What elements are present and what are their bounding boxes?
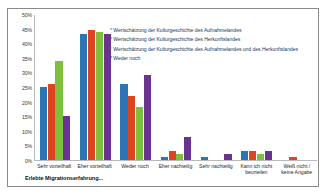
- x-axis-tick-label: Weder noch: [115, 162, 155, 184]
- y-axis-tick-label: 35%: [8, 56, 32, 61]
- bar[interactable]: [96, 32, 103, 160]
- y-axis-tick-label: 20%: [8, 100, 32, 105]
- bar[interactable]: [201, 157, 208, 160]
- bar[interactable]: [265, 151, 272, 160]
- legend-item-label: Wertschätzung der Kulturgeschichte des A…: [113, 46, 298, 52]
- bar[interactable]: [136, 107, 143, 160]
- bar[interactable]: [176, 154, 183, 160]
- legend-item[interactable]: *Weder noch: [110, 55, 318, 61]
- bar-group: [35, 15, 75, 160]
- legend-item[interactable]: *Wertschätzung der Kulturgeschichte des …: [110, 46, 318, 52]
- y-axis-tick-label: 15%: [8, 115, 32, 120]
- legend-item-label: Weder noch: [113, 55, 140, 61]
- legend-marker-icon: *: [110, 36, 112, 42]
- chart-legend: *Wertschätzung der Kulturgeschichte des …: [110, 27, 318, 65]
- bar[interactable]: [184, 137, 191, 160]
- bar[interactable]: [63, 116, 70, 160]
- y-axis-tick-label: 50%: [8, 13, 32, 18]
- chart-plot-wrapper: 50%45%40%35%30%25%20%15%10%5%0% *Wertsch…: [8, 9, 318, 186]
- legend-marker-icon: *: [110, 46, 112, 52]
- x-axis-tick-label: Weiß nicht / keine Angabe: [277, 162, 317, 184]
- y-axis: 50%45%40%35%30%25%20%15%10%5%0%: [8, 15, 34, 161]
- x-axis-title: Erlebte Migrationserfahrung...: [25, 175, 103, 181]
- bar[interactable]: [161, 157, 168, 160]
- y-axis-tick-label: 30%: [8, 71, 32, 76]
- bar[interactable]: [55, 61, 62, 160]
- bar[interactable]: [224, 154, 231, 160]
- bar[interactable]: [40, 87, 47, 160]
- legend-item-label: Wertschätzung der Kulturgeschichte des H…: [113, 36, 240, 42]
- bar[interactable]: [241, 151, 248, 160]
- legend-marker-icon: *: [110, 27, 112, 33]
- y-axis-tick-label: 40%: [8, 42, 32, 47]
- bar[interactable]: [249, 151, 256, 160]
- legend-item[interactable]: *Wertschätzung der Kulturgeschichte des …: [110, 27, 318, 33]
- y-axis-tick-label: 0%: [8, 159, 32, 164]
- bar[interactable]: [120, 84, 127, 160]
- legend-marker-icon: *: [110, 55, 112, 61]
- x-axis-tick-label: Eher nachteilig: [155, 162, 195, 184]
- x-axis-tick-label: Sehr nachteilig: [196, 162, 236, 184]
- bar[interactable]: [48, 84, 55, 160]
- y-axis-tick-label: 10%: [8, 129, 32, 134]
- bar[interactable]: [88, 30, 95, 160]
- bar[interactable]: [257, 154, 264, 160]
- bar[interactable]: [169, 151, 176, 160]
- y-axis-tick-label: 5%: [8, 144, 32, 149]
- y-axis-tick-label: 25%: [8, 86, 32, 91]
- legend-item-label: Wertschätzung der Kulturgeschichte des A…: [113, 27, 241, 33]
- y-axis-tick-label: 45%: [8, 27, 32, 32]
- bar[interactable]: [144, 75, 151, 160]
- legend-item[interactable]: *Wertschätzung der Kulturgeschichte des …: [110, 36, 318, 42]
- bar[interactable]: [128, 96, 135, 160]
- chart-frame: 50%45%40%35%30%25%20%15%10%5%0% *Wertsch…: [7, 8, 319, 187]
- bar[interactable]: [289, 157, 296, 160]
- x-axis-tick-label: Kann ich nicht beurteilen: [236, 162, 276, 184]
- bar[interactable]: [80, 34, 87, 160]
